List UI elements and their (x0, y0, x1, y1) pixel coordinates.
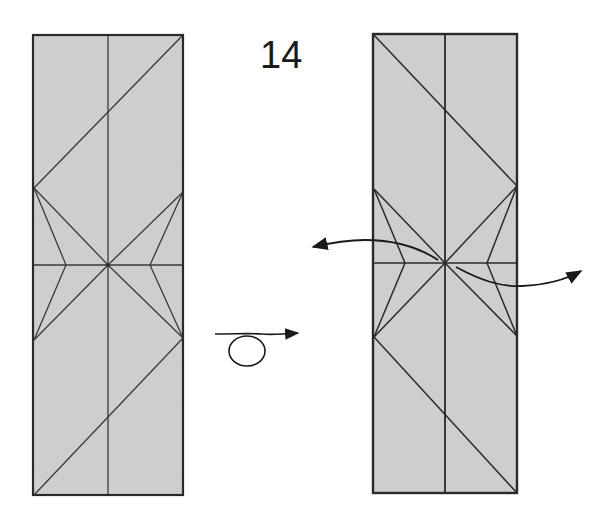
panel-after (373, 34, 517, 493)
origami-diagram (0, 0, 606, 525)
panel-before (33, 35, 183, 495)
turn-over-arrow-icon (215, 333, 298, 366)
